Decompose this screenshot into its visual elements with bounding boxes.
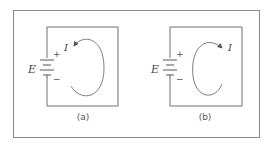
panel-a: + − E I (a) <box>27 27 118 122</box>
current-label-a: I <box>63 42 69 53</box>
circuit-loop-b <box>170 27 242 106</box>
caption-a: (a) <box>77 112 90 122</box>
plus-sign-b: + <box>176 49 184 59</box>
circuit-figure: + − E I (a) + − E I (b) <box>0 0 272 146</box>
battery-icon-a <box>40 60 54 78</box>
minus-sign-a: − <box>53 74 61 84</box>
plus-sign-a: + <box>53 49 61 59</box>
minus-sign-b: − <box>176 74 184 84</box>
panel-b: + − E I (b) <box>150 27 242 122</box>
current-arrow-icon-b <box>193 43 222 96</box>
source-label-a: E <box>27 63 36 76</box>
circuit-loop-a <box>47 27 118 106</box>
current-arrow-icon-a <box>71 39 104 96</box>
caption-b: (b) <box>199 112 212 122</box>
battery-icon-b <box>163 60 177 78</box>
source-label-b: E <box>150 63 159 76</box>
current-label-b: I <box>227 42 233 53</box>
